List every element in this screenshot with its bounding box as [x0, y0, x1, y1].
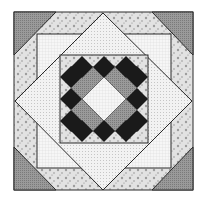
- quilt-block-figure: [0, 0, 205, 200]
